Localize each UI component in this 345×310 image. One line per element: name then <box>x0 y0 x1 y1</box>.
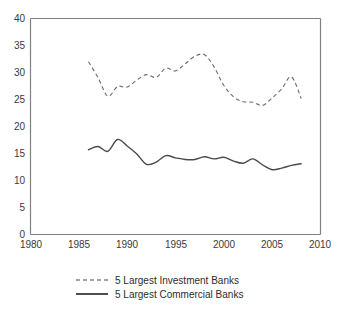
y-tick-label: 10 <box>14 175 26 186</box>
legend-label: 5 Largest Commercial Banks <box>115 289 243 300</box>
legend-label: 5 Largest Investment Banks <box>115 275 239 286</box>
x-axis-ticks: 1980 1985 1990 1995 2000 2005 2010 <box>20 239 332 250</box>
y-tick-label: 20 <box>14 121 26 132</box>
x-tick-label: 2010 <box>309 239 332 250</box>
y-tick-label: 30 <box>14 67 26 78</box>
legend-item-commercial-banks[interactable]: 5 Largest Commercial Banks <box>76 289 243 300</box>
y-tick-label: 15 <box>14 148 26 159</box>
legend-item-investment-banks[interactable]: 5 Largest Investment Banks <box>76 275 239 286</box>
plot-frame <box>31 19 321 235</box>
x-tick-label: 2000 <box>213 239 236 250</box>
x-tick-label: 2005 <box>261 239 284 250</box>
line-chart: 40 35 30 25 20 15 10 5 0 1980 1985 1990 … <box>0 0 345 310</box>
series-investment-banks-line <box>89 54 302 106</box>
series-commercial-banks-line <box>89 139 302 169</box>
y-tick-label: 5 <box>19 202 25 213</box>
x-tick-label: 1980 <box>20 239 43 250</box>
x-tick-label: 1990 <box>116 239 139 250</box>
y-tick-label: 25 <box>14 94 26 105</box>
y-axis-ticks: 40 35 30 25 20 15 10 5 0 <box>14 13 26 240</box>
chart-legend: 5 Largest Investment Banks 5 Largest Com… <box>76 275 243 300</box>
y-tick-label: 40 <box>14 13 26 24</box>
x-tick-label: 1995 <box>165 239 188 250</box>
x-tick-label: 1985 <box>68 239 91 250</box>
data-series-group <box>89 54 302 170</box>
y-tick-label: 35 <box>14 40 26 51</box>
chart-figure: 40 35 30 25 20 15 10 5 0 1980 1985 1990 … <box>0 0 345 310</box>
